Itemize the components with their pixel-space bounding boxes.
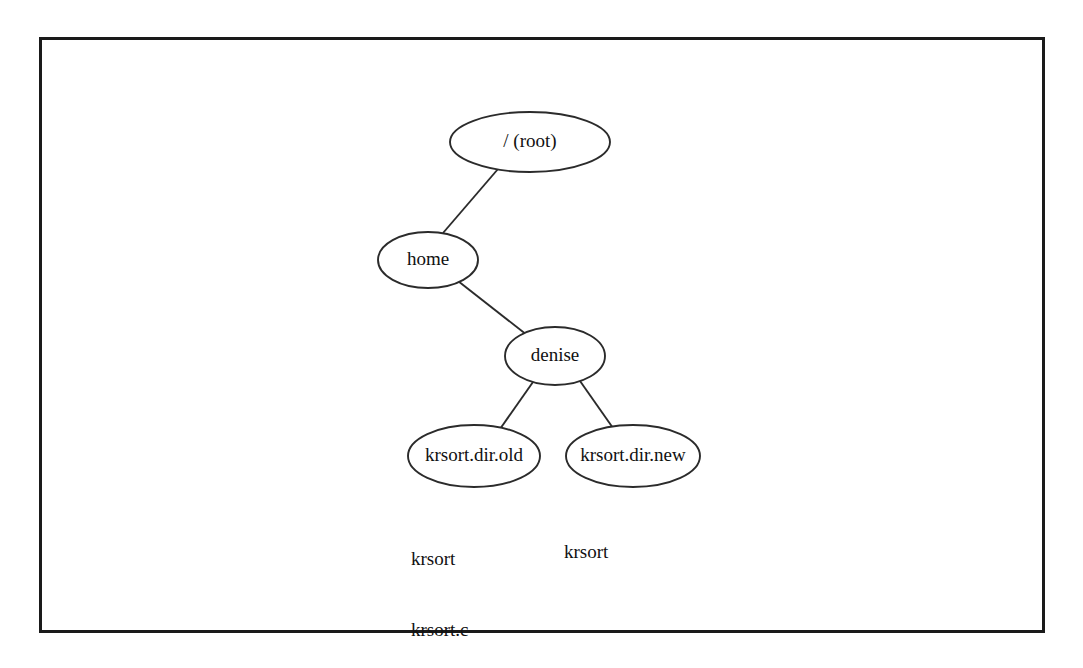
file-list-krsort-dir-old: krsort krsort.c krsort.dos krsort.q krso… <box>411 500 499 668</box>
node-denise-label: denise <box>531 344 580 365</box>
edge-denise-to-krsort-dir-old <box>500 382 533 429</box>
node-krsort-dir-old: krsort.dir.old <box>408 425 540 487</box>
file-list-krsort-dir-new: krsort <box>564 493 608 611</box>
node-krsort-dir-new-label: krsort.dir.new <box>580 444 686 465</box>
edge-home-to-denise <box>458 281 527 335</box>
tree-nodes: / (root) home denise krsort.dir.old krso… <box>378 112 700 487</box>
figure-canvas: / (root) home denise krsort.dir.old krso… <box>0 0 1083 668</box>
node-home-label: home <box>407 248 449 269</box>
node-krsort-dir-old-label: krsort.dir.old <box>425 444 524 465</box>
file-list-item: krsort.c <box>411 618 499 642</box>
node-home: home <box>378 232 478 288</box>
node-denise: denise <box>505 327 605 385</box>
tree-edges <box>443 169 613 429</box>
edge-root-to-home <box>443 169 498 233</box>
node-root: / (root) <box>450 112 610 172</box>
node-krsort-dir-new: krsort.dir.new <box>566 425 700 487</box>
file-list-item: krsort <box>411 547 499 571</box>
file-list-item: krsort <box>564 540 608 564</box>
edge-denise-to-krsort-dir-new <box>580 381 613 428</box>
node-root-label: / (root) <box>503 130 556 152</box>
directory-tree-graphic: / (root) home denise krsort.dir.old krso… <box>0 0 1083 668</box>
